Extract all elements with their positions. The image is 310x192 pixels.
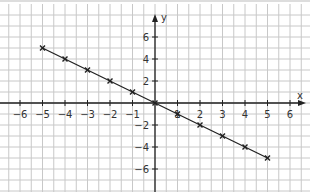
svg-text:6: 6	[287, 109, 293, 120]
svg-text:−6: −6	[13, 109, 28, 120]
svg-text:2: 2	[197, 109, 203, 120]
svg-text:−4: −4	[134, 142, 149, 153]
svg-text:−2: −2	[134, 120, 149, 131]
svg-text:3: 3	[219, 109, 225, 120]
x-axis-label: x	[297, 90, 303, 101]
svg-text:−4: −4	[58, 109, 73, 120]
svg-text:6: 6	[143, 32, 149, 43]
svg-text:2: 2	[143, 76, 149, 87]
svg-text:4: 4	[242, 109, 248, 120]
svg-text:5: 5	[264, 109, 270, 120]
svg-text:−3: −3	[80, 109, 95, 120]
coordinate-plot: −6−5−4−3−2−1123456−6−4−2246 x y	[0, 0, 310, 192]
svg-text:4: 4	[143, 54, 149, 65]
svg-text:−5: −5	[35, 109, 50, 120]
svg-text:−1: −1	[125, 109, 140, 120]
svg-text:−2: −2	[103, 109, 118, 120]
y-axis-label: y	[161, 12, 167, 23]
svg-text:−6: −6	[134, 164, 149, 175]
